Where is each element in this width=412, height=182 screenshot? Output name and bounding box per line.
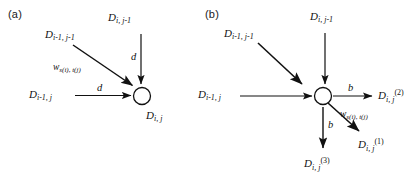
output-right-b-label: Di, j(2) xyxy=(378,89,404,104)
edge-diagonal-out-b-weight-sub: s(i), t(j) xyxy=(346,113,367,121)
input-top-b-sub: i, j-1 xyxy=(318,15,333,24)
output-right-b-base: D xyxy=(378,89,386,101)
center-node-a-sub: i, j xyxy=(154,114,162,123)
output-bottom-b-sup: (3) xyxy=(320,156,329,165)
edge-left-a-label: d xyxy=(97,83,102,94)
output-right-b-sup: (2) xyxy=(394,88,403,97)
center-node-a xyxy=(134,88,151,105)
edge-diagonal-a xyxy=(73,45,133,86)
edge-diagonal-a-weight-label: ws(i), t(j) xyxy=(53,63,81,74)
input-diagonal-a-label: Di-1, j-1 xyxy=(45,29,75,42)
edge-top-a-label: d xyxy=(131,52,136,63)
input-left-b-sub: i-1, j xyxy=(206,93,221,102)
input-diagonal-b-label: Di-1, j-1 xyxy=(224,28,254,41)
figure-canvas: (a) Di, j Di-1, j-1 ws(i) xyxy=(0,0,412,182)
center-node-a-label: Di, j xyxy=(146,110,162,123)
center-node-b xyxy=(315,88,332,105)
output-bottom-b-label: Di, j(3) xyxy=(304,157,330,172)
edge-bottom-out-b-label: b xyxy=(328,120,333,131)
edge-right-out-b-label: b xyxy=(348,83,353,94)
edge-diagonal-out-b-weight-label: ws(i), t(j) xyxy=(340,110,368,121)
input-top-a-base: D xyxy=(108,11,116,23)
input-left-b-label: Di-1, j xyxy=(198,89,221,102)
output-diagonal-b-base: D xyxy=(358,138,366,150)
panel-b: (b) Di-1, j-1 xyxy=(200,0,412,182)
input-diagonal-b-base: D xyxy=(224,27,232,39)
input-diagonal-a-sub: i-1, j-1 xyxy=(53,33,75,42)
output-diagonal-b-sup: (1) xyxy=(374,137,383,146)
center-node-a-base: D xyxy=(146,109,154,121)
input-top-a-label: Di, j-1 xyxy=(108,12,131,25)
edge-diagonal-b xyxy=(258,43,302,84)
output-bottom-b-base: D xyxy=(304,157,312,169)
input-top-b-base: D xyxy=(310,10,318,22)
input-diagonal-b-sub: i-1, j-1 xyxy=(232,32,254,41)
input-left-a-label: Di-1, j xyxy=(29,89,52,102)
output-diagonal-b-label: Di, j(1) xyxy=(358,138,384,153)
input-diagonal-a-base: D xyxy=(45,28,53,40)
input-left-b-base: D xyxy=(198,88,206,100)
input-left-a-base: D xyxy=(29,88,37,100)
input-left-a-sub: i-1, j xyxy=(37,93,52,102)
panel-a: (a) Di, j Di-1, j-1 ws(i) xyxy=(0,0,206,182)
input-top-a-sub: i, j-1 xyxy=(116,16,131,25)
edge-diagonal-a-weight-sub: s(i), t(j) xyxy=(59,66,80,74)
input-top-b-label: Di, j-1 xyxy=(310,11,333,24)
